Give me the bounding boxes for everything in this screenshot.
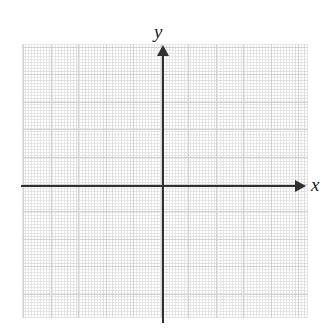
x-axis-label: x xyxy=(311,175,319,194)
y-axis-arrow-icon xyxy=(157,45,169,56)
y-axis-line xyxy=(162,52,164,323)
x-axis-arrow-icon xyxy=(295,180,306,192)
y-axis-label: y xyxy=(154,22,162,41)
coordinate-plane-figure: x y xyxy=(0,0,331,329)
major-gridlines xyxy=(22,44,308,318)
grid-area xyxy=(22,44,308,318)
